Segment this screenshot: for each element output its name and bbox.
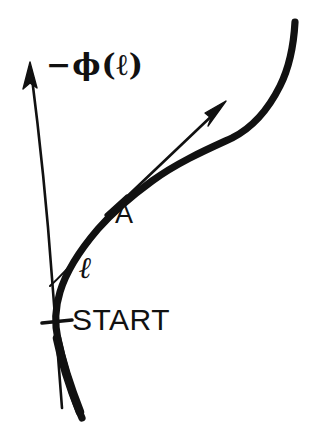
point-a-label: A (115, 201, 133, 228)
figure-canvas: −ϕ(ℓ) A ℓ START (0, 0, 317, 440)
start-label: START (72, 305, 170, 335)
arclength-label: ℓ (79, 253, 92, 283)
axis-label: −ϕ(ℓ) (46, 50, 144, 80)
